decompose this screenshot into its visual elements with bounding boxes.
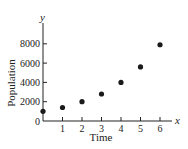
x-tick-label: 1 bbox=[60, 123, 65, 134]
x-axis-variable: x bbox=[174, 114, 180, 126]
y-tick-label: 8000 bbox=[20, 38, 40, 49]
x-tick-label: 4 bbox=[119, 123, 124, 134]
data-point bbox=[40, 109, 45, 114]
data-point bbox=[157, 42, 162, 47]
y-tick-label: 4000 bbox=[20, 77, 40, 88]
data-point bbox=[118, 80, 123, 85]
data-point bbox=[138, 64, 143, 69]
y-tick-label: 0 bbox=[35, 116, 40, 127]
x-tick-label: 5 bbox=[138, 123, 143, 134]
y-tick-label: 2000 bbox=[20, 96, 40, 107]
y-axis-title: Population bbox=[5, 59, 17, 107]
y-tick-label: 6000 bbox=[20, 58, 40, 69]
data-points bbox=[40, 42, 162, 114]
x-tick-label: 3 bbox=[99, 123, 104, 134]
scatter-chart: y x Time Population 02000400060008000 12… bbox=[0, 0, 188, 149]
data-point bbox=[99, 91, 104, 96]
data-point bbox=[60, 105, 65, 110]
x-tick-label: 2 bbox=[80, 123, 85, 134]
x-tick-label: 6 bbox=[158, 123, 163, 134]
data-point bbox=[79, 99, 84, 104]
y-axis-variable: y bbox=[39, 11, 45, 23]
